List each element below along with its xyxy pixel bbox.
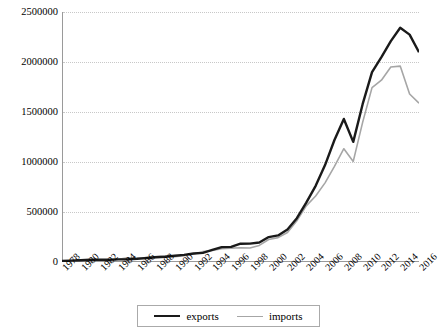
y-tick-label: 2000000	[2, 57, 58, 67]
x-axis-labels: 1978198019821984198619881990199219941996…	[62, 263, 419, 309]
legend-swatch-exports	[154, 315, 180, 317]
chart-legend: exports imports	[137, 305, 320, 327]
y-tick-label: 0	[2, 257, 58, 267]
y-axis-labels: 05000001000000150000020000002500000	[0, 12, 58, 262]
legend-swatch-imports	[237, 316, 263, 317]
y-tick-label: 1500000	[2, 107, 58, 117]
legend-label-exports: exports	[186, 311, 218, 322]
y-tick-label: 1000000	[2, 157, 58, 167]
legend-item-exports: exports	[154, 311, 218, 322]
legend-label-imports: imports	[269, 311, 303, 322]
x-tick-label: 2016	[417, 251, 439, 273]
y-tick-label: 2500000	[2, 7, 58, 17]
y-tick-label: 500000	[2, 207, 58, 217]
line-chart: 05000001000000150000020000002500000 1978…	[0, 0, 443, 336]
legend-item-imports: imports	[237, 311, 303, 322]
series-lines	[62, 12, 419, 262]
line-exports	[62, 28, 419, 261]
